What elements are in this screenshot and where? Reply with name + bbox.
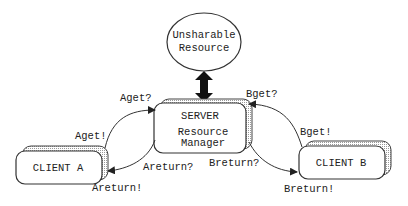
aget-arrow bbox=[105, 110, 155, 148]
client-b-label: CLIENT B bbox=[316, 157, 366, 169]
resource-manager-diagram: Unsharable Resource SERVER Resource Mana… bbox=[0, 0, 408, 206]
resource-label-line1: Unsharable bbox=[172, 29, 235, 41]
client-a-node: CLIENT A bbox=[16, 146, 108, 184]
aget-request-label: Aget? bbox=[120, 92, 152, 104]
client-b-node: CLIENT B bbox=[299, 141, 391, 179]
bget-arrow bbox=[249, 104, 302, 147]
areturn-request-label: Areturn? bbox=[143, 161, 193, 173]
breturn-reply-label: Breturn! bbox=[284, 183, 334, 195]
double-arrow-icon bbox=[195, 71, 213, 102]
server-title: SERVER bbox=[181, 110, 220, 122]
resource-label-line2: Resource bbox=[179, 42, 229, 54]
aget-reply-label: Aget! bbox=[75, 130, 107, 142]
bget-reply-label: Bget! bbox=[300, 126, 332, 138]
client-a-label: CLIENT A bbox=[33, 162, 84, 174]
bget-request-label: Bget? bbox=[246, 88, 278, 100]
server-line2: Manager bbox=[181, 137, 225, 149]
unsharable-resource-node: Unsharable Resource bbox=[167, 13, 241, 71]
server-node: SERVER Resource Manager bbox=[154, 99, 252, 153]
areturn-reply-label: Areturn! bbox=[92, 182, 142, 194]
breturn-request-label: Breturn? bbox=[209, 157, 259, 169]
